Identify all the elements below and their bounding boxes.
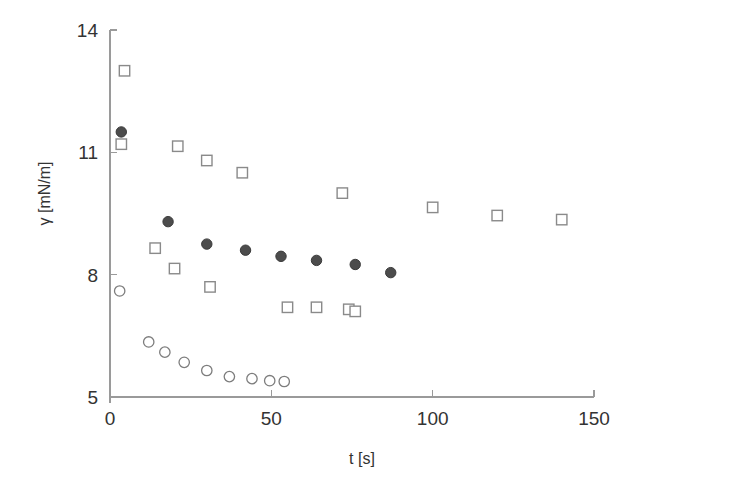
axis-lines	[110, 30, 594, 397]
chart-figure: 141185050100150 t [s]γ [mN/m]	[0, 0, 733, 499]
data-point-filled-circle	[240, 245, 250, 255]
data-point-filled-circle	[163, 216, 173, 226]
tick-labels: 141185050100150	[77, 20, 610, 429]
data-point-filled-circle	[202, 239, 212, 249]
x-tick-label: 100	[417, 408, 449, 429]
data-point-open-square	[557, 214, 567, 224]
data-point-open-square	[337, 188, 347, 198]
data-point-open-circle	[265, 375, 275, 385]
x-axis-title: t [s]	[349, 450, 375, 467]
y-tick-label: 11	[78, 142, 98, 163]
data-point-open-square	[282, 302, 292, 312]
data-point-open-square	[119, 66, 129, 76]
y-axis-title: γ [mN/m]	[36, 162, 53, 226]
data-point-open-square	[173, 141, 183, 151]
data-series	[114, 66, 566, 387]
y-tick-label: 5	[87, 387, 98, 408]
data-point-filled-circle	[276, 251, 286, 261]
data-point-open-square	[427, 202, 437, 212]
data-point-open-square	[150, 243, 160, 253]
data-point-filled-circle	[386, 267, 396, 277]
y-tick-label: 8	[87, 265, 98, 286]
axes	[110, 30, 594, 403]
series-filled-circle-series	[116, 127, 396, 278]
x-tick-label: 0	[105, 408, 116, 429]
data-point-filled-circle	[116, 127, 126, 137]
data-point-open-circle	[144, 337, 154, 347]
data-point-open-square	[116, 139, 126, 149]
data-point-open-square	[237, 168, 247, 178]
y-tick-label: 14	[77, 20, 99, 41]
series-open-square-series	[116, 66, 567, 317]
data-point-open-square	[350, 306, 360, 316]
scatter-plot: 141185050100150 t [s]γ [mN/m]	[0, 0, 733, 499]
data-point-open-circle	[160, 347, 170, 357]
data-point-open-square	[169, 263, 179, 273]
x-tick-label: 50	[261, 408, 282, 429]
data-point-open-square	[492, 210, 502, 220]
data-point-open-square	[311, 302, 321, 312]
data-point-open-circle	[179, 357, 189, 367]
x-tick-label: 150	[578, 408, 610, 429]
data-point-open-circle	[247, 373, 257, 383]
data-point-open-square	[202, 155, 212, 165]
data-point-open-circle	[202, 365, 212, 375]
data-point-filled-circle	[350, 259, 360, 269]
data-point-open-circle	[279, 376, 289, 386]
data-point-filled-circle	[311, 255, 321, 265]
data-point-open-circle	[224, 371, 234, 381]
data-point-open-square	[205, 282, 215, 292]
series-open-circle-series	[114, 286, 289, 387]
axis-titles: t [s]γ [mN/m]	[36, 162, 375, 468]
data-point-open-circle	[114, 286, 124, 296]
